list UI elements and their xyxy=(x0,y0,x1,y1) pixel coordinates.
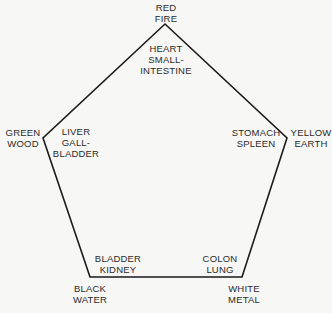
organ-colon: COLON xyxy=(196,253,244,264)
organ-gall: GALL- xyxy=(50,137,102,148)
organ-stomach: STOMACH xyxy=(230,127,282,138)
element-label-earth: YELLOW EARTH xyxy=(290,127,332,149)
organ-label-fire: HEART SMALL- INTESTINE xyxy=(130,43,202,76)
element-name-metal: METAL xyxy=(222,294,266,305)
organ-kidney: KIDNEY xyxy=(88,264,148,275)
element-name-wood: WOOD xyxy=(3,138,43,149)
element-name-water: WATER xyxy=(70,294,110,305)
color-label-metal: WHITE xyxy=(222,283,266,294)
element-label-wood: GREEN WOOD xyxy=(3,127,43,149)
organ-label-earth: STOMACH SPLEEN xyxy=(230,127,282,149)
element-label-water: BLACK WATER xyxy=(70,283,110,305)
color-label-water: BLACK xyxy=(70,283,110,294)
organ-liver: LIVER xyxy=(50,126,102,137)
organ-small: SMALL- xyxy=(130,54,202,65)
organ-bladder: BLADDER xyxy=(88,253,148,264)
organ-lung: LUNG xyxy=(196,264,244,275)
organ-label-wood: LIVER GALL- BLADDER xyxy=(50,126,102,159)
element-label-metal: WHITE METAL xyxy=(222,283,266,305)
organ-spleen: SPLEEN xyxy=(230,138,282,149)
organ-bladder-gall: BLADDER xyxy=(50,148,102,159)
organ-label-water: BLADDER KIDNEY xyxy=(88,253,148,275)
organ-label-metal: COLON LUNG xyxy=(196,253,244,275)
element-label-fire: RED FIRE xyxy=(146,2,186,24)
color-label-earth: YELLOW xyxy=(290,127,332,138)
element-name-fire: FIRE xyxy=(146,13,186,24)
element-name-earth: EARTH xyxy=(290,138,332,149)
organ-heart: HEART xyxy=(130,43,202,54)
color-label-fire: RED xyxy=(146,2,186,13)
color-label-wood: GREEN xyxy=(3,127,43,138)
organ-intestine: INTESTINE xyxy=(130,65,202,76)
